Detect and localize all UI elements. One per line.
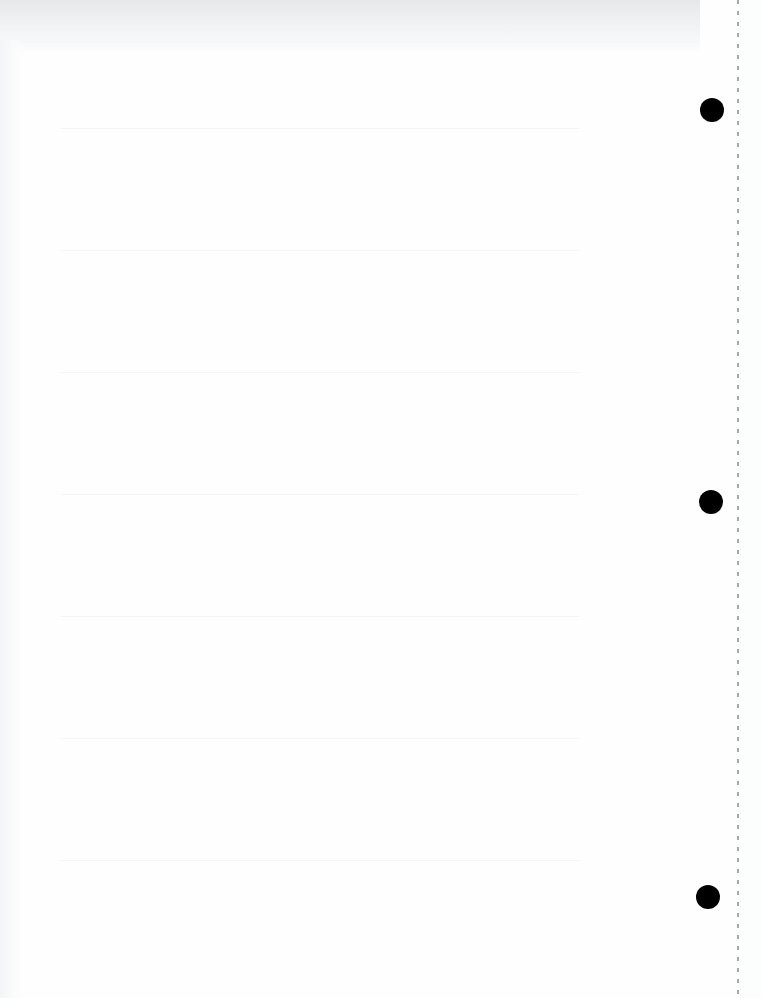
punch-hole-bottom <box>696 885 720 909</box>
ghost-line <box>60 616 580 617</box>
ghost-line <box>60 128 580 129</box>
punch-hole-middle <box>699 490 723 514</box>
punch-hole-top <box>700 98 724 122</box>
ghost-line <box>60 860 580 861</box>
scan-shadow-band <box>0 0 700 52</box>
ghost-line <box>60 494 580 495</box>
ghost-line <box>60 372 580 373</box>
left-edge-shadow <box>0 40 22 998</box>
ghost-line <box>60 250 580 251</box>
perforation-line <box>737 0 739 998</box>
paper-page <box>0 0 761 998</box>
tear-off-strip <box>739 0 761 998</box>
ghost-line <box>60 738 580 739</box>
